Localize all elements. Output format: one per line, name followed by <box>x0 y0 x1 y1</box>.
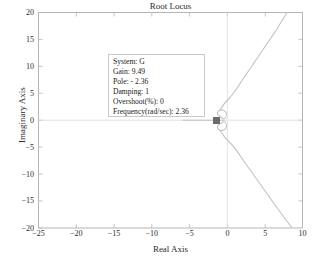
locus-upper-asymptote <box>220 13 287 111</box>
x-axis-label: Real Axis <box>38 244 303 254</box>
data-tip-gain: Gain: 9.49 <box>113 67 204 77</box>
y-tick-label: 20 <box>10 8 34 17</box>
selected-pole-marker[interactable] <box>213 117 220 124</box>
data-tip-pole: Pole: - 2.36 <box>113 77 204 87</box>
y-tick-label: 15 <box>10 35 34 44</box>
x-tick-label: −15 <box>99 229 129 238</box>
y-tick-label: −15 <box>10 196 34 205</box>
y-axis-label: Imaginary Axis <box>17 55 27 175</box>
data-tip-box[interactable]: System: G Gain: 9.49 Pole: - 2.36 Dampin… <box>108 54 205 117</box>
data-tip-system: System: G <box>113 57 204 67</box>
plot-canvas <box>0 0 313 265</box>
x-tick-label: 10 <box>288 229 314 238</box>
x-tick-label: 0 <box>212 229 242 238</box>
data-tip-damping: Damping: 1 <box>113 87 204 97</box>
x-tick-label: −5 <box>175 229 205 238</box>
x-tick-label: −10 <box>137 229 167 238</box>
data-tip-overshoot: Overshoot(%): 0 <box>113 97 204 107</box>
data-tip-frequency: Frequency(rad/sec): 2.36 <box>113 107 204 117</box>
x-tick-label: 5 <box>250 229 280 238</box>
x-tick-label: −20 <box>61 229 91 238</box>
locus-lower-asymptote <box>220 130 292 228</box>
root-locus-figure: Root Locus <box>0 0 313 265</box>
y-tick-label: −20 <box>10 224 34 233</box>
